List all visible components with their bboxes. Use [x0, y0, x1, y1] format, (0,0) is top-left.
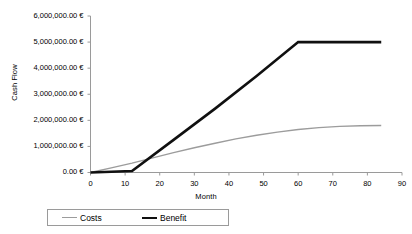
- legend-line-icon-costs: [62, 217, 77, 218]
- legend-label-benefit: Benefit: [160, 213, 186, 223]
- x-axis-tick-label: 30: [182, 180, 206, 188]
- legend-item-costs: Costs: [62, 210, 102, 225]
- y-axis-tick-label: 0.00 €: [0, 168, 84, 176]
- x-axis-title: Month: [0, 192, 412, 201]
- legend-label-costs: Costs: [80, 213, 102, 223]
- y-axis-tick-label: 3,000,000.00 €: [0, 90, 84, 98]
- x-axis-tick-label: 40: [217, 180, 241, 188]
- x-axis-tick-label: 70: [321, 180, 345, 188]
- x-axis-tick-label: 90: [390, 180, 412, 188]
- x-axis-tick-label: 50: [252, 180, 276, 188]
- y-axis-tick-label: 2,000,000.00 €: [0, 116, 84, 124]
- series-line-costs: [91, 126, 382, 173]
- data-series: [91, 42, 382, 172]
- legend-line-icon-benefit: [142, 217, 157, 219]
- x-axis-tick-label: 80: [355, 180, 379, 188]
- x-axis-tick-label: 10: [113, 180, 137, 188]
- y-axis-tick-label: 1,000,000.00 €: [0, 142, 84, 150]
- y-axis-tick-label: 4,000,000.00 €: [0, 64, 84, 72]
- chart-legend: Costs Benefit: [47, 209, 229, 226]
- x-axis-tick-label: 60: [286, 180, 310, 188]
- series-line-benefit: [91, 42, 382, 172]
- y-axis-tick-label: 5,000,000.00 €: [0, 38, 84, 46]
- axis-lines: [90, 16, 402, 173]
- x-axis-tick-label: 20: [148, 180, 172, 188]
- y-axis-title: Cash Flow: [10, 43, 19, 123]
- y-axis-tick-label: 6,000,000.00 €: [0, 12, 84, 20]
- cash-flow-line-chart: Cash Flow 0.00 €1,000,000.00 €2,000,000.…: [0, 0, 412, 234]
- x-axis-tick-label: 0: [79, 180, 103, 188]
- legend-item-benefit: Benefit: [142, 210, 186, 225]
